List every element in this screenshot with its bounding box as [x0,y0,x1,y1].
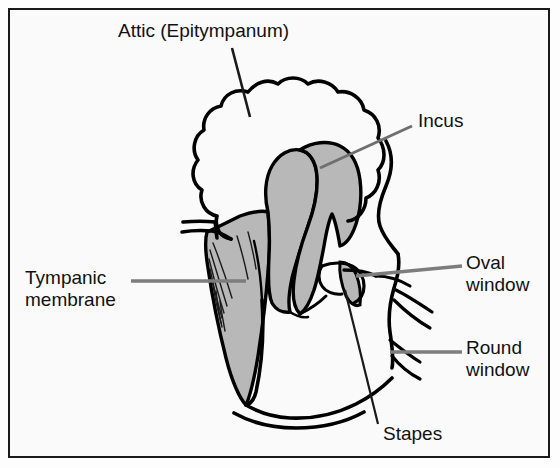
leader-oval-window [356,266,462,276]
cavity-floor-upper [246,378,392,418]
leader-attic [232,48,250,117]
leader-stapes [345,290,378,424]
figure-root: Attic (Epitympanum) Incus Tympanic membr… [0,0,560,468]
label-round-window: Round window [466,337,529,381]
oval-window-niche [376,276,410,286]
label-oval-window: Oval window [466,252,529,296]
ear-canal-lower-wall [183,221,215,222]
canal-bridge [215,222,217,238]
vestibule-branch-2 [394,300,430,328]
label-attic: Attic (Epitympanum) [118,20,289,42]
shaded-structures [206,143,361,405]
label-incus: Incus [418,110,463,132]
label-stapes: Stapes [383,423,442,445]
medial-wall [378,141,398,254]
label-tympanic-membrane: Tympanic membrane [25,267,116,311]
anatomy-illustration [0,0,560,468]
cavity-floor-lower [234,412,364,428]
